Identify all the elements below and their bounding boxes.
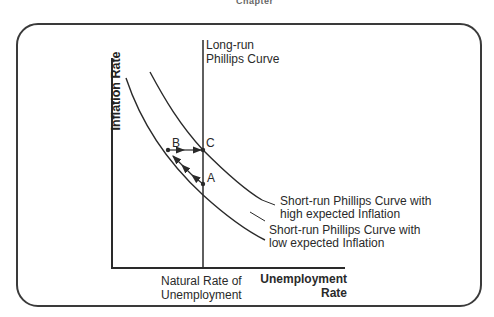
srpc-high-label-line2: high expected Inflation — [280, 208, 400, 221]
point-c — [201, 148, 205, 152]
y-axis-label: Inflation Rate — [109, 41, 123, 141]
natural-rate-label-line1: Natural Rate of — [161, 275, 242, 288]
x-axis-label-line1: Unemployment — [259, 273, 347, 286]
srpc-low-expected-inflation — [126, 78, 265, 240]
srpc-low-label-line2: low expected Inflation — [269, 237, 384, 250]
natural-rate-label-line2: Unemployment — [161, 289, 242, 302]
lrpc-label-line1: Long-run — [206, 39, 254, 52]
point-c-label: C — [206, 137, 215, 150]
point-b-label: B — [172, 137, 180, 150]
lrpc-label-line2: Phillips Curve — [206, 53, 279, 66]
x-axis-label-line2: Rate — [259, 287, 347, 300]
point-a-label: A — [207, 172, 215, 185]
